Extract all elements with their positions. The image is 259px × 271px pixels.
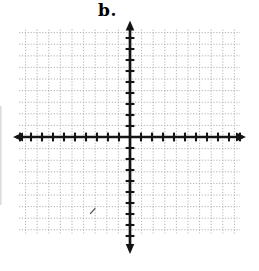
- y-axis-bottom-arrowhead-icon: [126, 244, 135, 254]
- coordinate-plane: [0, 0, 259, 271]
- scan-edge-artifact: [0, 106, 2, 205]
- worksheet-figure-b: b.: [0, 0, 259, 271]
- x-axis-left-arrowhead-icon: [13, 132, 23, 141]
- stray-pen-mark: [91, 209, 96, 214]
- y-axis-top-arrowhead-icon: [126, 21, 135, 31]
